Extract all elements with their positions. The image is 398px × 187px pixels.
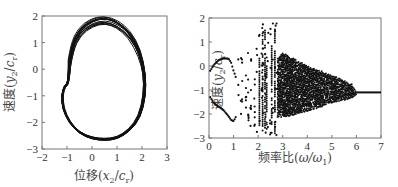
data-point — [274, 104, 276, 106]
data-point — [264, 34, 266, 36]
data-point — [266, 108, 268, 110]
x-tick-label: 2 — [139, 151, 145, 163]
data-point — [262, 91, 264, 93]
data-point — [280, 116, 282, 118]
data-point — [274, 76, 276, 78]
data-point — [345, 96, 347, 98]
data-point — [274, 39, 276, 41]
data-point — [266, 72, 268, 74]
data-point — [279, 114, 281, 116]
data-point — [264, 116, 266, 118]
data-point — [274, 96, 276, 98]
data-point — [237, 94, 239, 96]
data-point — [258, 35, 260, 37]
data-point — [258, 124, 260, 126]
data-point — [310, 103, 312, 105]
data-point — [258, 109, 260, 111]
data-point — [262, 112, 264, 114]
y-tick-label: −2 — [193, 108, 205, 120]
data-point — [275, 134, 277, 136]
data-point — [247, 115, 249, 117]
data-point — [274, 93, 276, 95]
data-point — [264, 97, 266, 99]
data-point — [269, 133, 271, 135]
data-point — [295, 59, 297, 61]
data-point — [256, 131, 258, 133]
data-point — [245, 99, 247, 101]
data-point — [301, 107, 303, 109]
data-point — [298, 61, 300, 63]
data-point — [264, 53, 266, 55]
data-point — [342, 91, 344, 93]
data-point — [274, 109, 276, 111]
data-point — [266, 76, 268, 78]
data-point — [258, 111, 260, 113]
data-point — [266, 98, 268, 100]
x-tick-label: −1 — [61, 151, 73, 163]
data-point — [264, 120, 266, 122]
data-point — [247, 79, 249, 81]
data-point — [250, 58, 252, 60]
y-axis-label: 速度(y2/cr) — [2, 52, 19, 112]
y-tick-label: −2 — [26, 116, 38, 128]
data-point — [274, 70, 276, 72]
data-point — [299, 102, 301, 104]
data-point — [264, 62, 266, 64]
data-point — [264, 118, 266, 120]
data-point — [274, 126, 276, 128]
data-point — [232, 120, 234, 122]
data-point — [258, 64, 260, 66]
data-point — [241, 62, 243, 64]
data-point — [254, 116, 256, 118]
bifurcation-plot: 01234567210−1−2−3频率比(ω/ω1)速度(y2/cr) — [193, 12, 384, 167]
data-point — [306, 77, 308, 79]
data-point — [258, 92, 260, 94]
data-point — [253, 98, 255, 100]
data-point — [305, 65, 307, 67]
data-point — [328, 90, 330, 92]
data-point — [327, 87, 329, 89]
data-point — [256, 71, 258, 73]
data-point — [271, 63, 273, 65]
data-point — [266, 67, 268, 69]
data-point — [271, 54, 273, 56]
data-point — [266, 85, 268, 87]
data-point — [262, 110, 264, 112]
data-point — [271, 117, 273, 119]
y-tick-label: 2 — [33, 10, 39, 22]
data-point — [264, 38, 266, 40]
data-point — [266, 121, 268, 123]
data-point — [271, 112, 273, 114]
data-point — [266, 95, 268, 97]
x-tick-label: 0 — [206, 140, 212, 152]
data-point — [245, 107, 247, 109]
data-point — [262, 106, 264, 108]
data-point — [301, 62, 303, 64]
data-point — [306, 108, 308, 110]
data-point — [247, 52, 249, 54]
x-axis-label: 频率比(ω/ω1) — [258, 150, 332, 167]
data-point — [271, 56, 273, 58]
data-point — [264, 107, 266, 109]
data-point — [264, 81, 266, 83]
data-point — [272, 22, 274, 24]
data-point — [262, 63, 264, 65]
data-point — [247, 119, 249, 121]
data-point — [298, 74, 300, 76]
data-point — [271, 67, 273, 69]
data-point — [274, 52, 276, 54]
data-point — [262, 54, 264, 56]
data-point — [279, 110, 281, 112]
data-point — [271, 73, 273, 75]
data-point — [274, 124, 276, 126]
data-point — [287, 58, 289, 60]
data-point — [258, 77, 260, 79]
data-point — [245, 74, 247, 76]
y-tick-label: 0 — [200, 60, 206, 72]
data-point — [310, 67, 312, 69]
data-point — [262, 43, 264, 45]
data-point — [250, 105, 252, 107]
data-point — [264, 112, 266, 114]
data-point — [271, 99, 273, 101]
data-point — [271, 114, 273, 116]
